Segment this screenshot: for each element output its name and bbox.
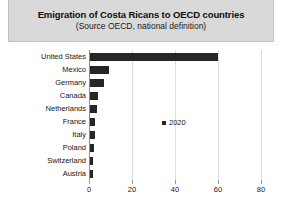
x-axis-tick-label: 20 — [128, 185, 136, 194]
chart-legend: 2020 — [162, 118, 186, 127]
y-axis-category-label: France — [2, 118, 86, 126]
y-axis-line — [89, 50, 90, 180]
bar-row — [89, 50, 218, 63]
x-axis-tick-labels: 020406080 — [89, 185, 261, 197]
x-axis-tick-label: 40 — [171, 185, 179, 194]
bar — [89, 105, 97, 113]
x-axis-tick-mark — [89, 180, 90, 184]
chart-plot-area — [89, 50, 261, 180]
legend-item-label: 2020 — [169, 118, 186, 127]
y-axis-category-label: Netherlands — [2, 105, 86, 113]
bar-row — [89, 76, 104, 89]
x-axis-tick-marks — [89, 180, 261, 184]
y-axis-category-label: Mexico — [2, 66, 86, 74]
bar — [89, 79, 104, 87]
y-axis-category-label: Germany — [2, 79, 86, 87]
x-axis-tick-label: 60 — [214, 185, 222, 194]
bar-row — [89, 102, 97, 115]
y-axis-category-label: Poland — [2, 144, 86, 152]
legend-swatch-icon — [162, 121, 166, 125]
x-axis-tick-mark — [261, 180, 262, 184]
x-gridline — [261, 50, 262, 180]
x-gridline — [175, 50, 176, 180]
chart-title-band: Emigration of Costa Ricans to OECD count… — [8, 0, 274, 42]
y-axis-category-label: United States — [2, 53, 86, 61]
x-gridline — [132, 50, 133, 180]
chart-plot-wrapper: United StatesMexicoGermanyCanadaNetherla… — [0, 46, 284, 207]
bar — [89, 92, 98, 100]
x-axis-tick-label: 80 — [257, 185, 265, 194]
y-axis-category-label: Italy — [2, 131, 86, 139]
bar-row — [89, 63, 109, 76]
x-gridline — [218, 50, 219, 180]
x-axis-tick-mark — [218, 180, 219, 184]
bar — [89, 66, 109, 74]
chart-figure: Emigration of Costa Ricans to OECD count… — [0, 0, 284, 207]
bar — [89, 53, 218, 61]
x-axis-tick-label: 0 — [87, 185, 91, 194]
y-axis-category-label: Canada — [2, 92, 86, 100]
y-axis-category-label: Switzerland — [2, 157, 86, 165]
chart-source-subtitle: (Source OECD, national definition) — [76, 22, 206, 31]
y-axis-category-label: Austria — [2, 170, 86, 178]
y-axis-category-labels: United StatesMexicoGermanyCanadaNetherla… — [0, 50, 86, 180]
page-title: Emigration of Costa Ricans to OECD count… — [38, 10, 245, 20]
bar-row — [89, 89, 98, 102]
x-axis-tick-mark — [175, 180, 176, 184]
x-axis-tick-mark — [132, 180, 133, 184]
